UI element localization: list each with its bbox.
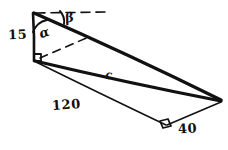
upper-edge-line [34, 13, 221, 100]
label-base-120: 120 [52, 97, 81, 112]
right-angle-marker-bottom [160, 119, 171, 128]
geometry-diagram: 15 α β c 120 40 [0, 0, 228, 150]
base-120-line [36, 62, 166, 125]
label-short-side-40: 40 [178, 122, 198, 136]
interior-dashed-line [40, 36, 91, 58]
label-hypotenuse-c: c [105, 69, 113, 81]
label-vertical-side-15: 15 [8, 28, 28, 42]
label-angle-beta: β [64, 10, 75, 25]
hypotenuse-c-line [35, 61, 221, 101]
